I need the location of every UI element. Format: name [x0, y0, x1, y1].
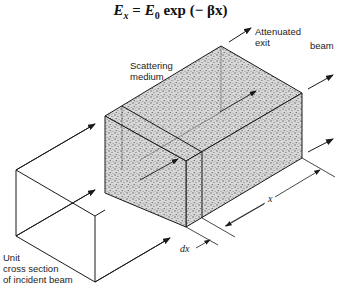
attenuation-equation: Ex = E0 exp (− βx) [0, 2, 341, 21]
equation-rhs-e: E [145, 2, 155, 18]
equation-lhs: E [114, 2, 124, 18]
label-dx: dx [180, 243, 189, 254]
label-scattering-medium: Scattering medium [130, 60, 173, 82]
label-unit-cross-section: Unit cross section of incident beam [3, 252, 73, 285]
label-beam: beam [310, 40, 334, 51]
equation-rhs-rest: exp (− βx) [160, 2, 228, 18]
label-attenuated-exit: Attenuated exit [255, 26, 301, 48]
equation-equals: = [129, 2, 145, 18]
label-x: x [268, 193, 272, 204]
